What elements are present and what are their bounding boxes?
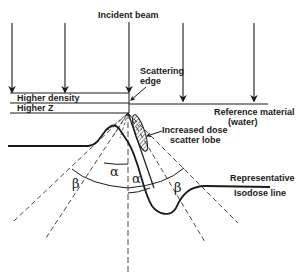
reference-material-label-2: (water) bbox=[228, 117, 258, 127]
scattering-edge-label-2: edge bbox=[140, 76, 161, 86]
reference-material-label: Reference material bbox=[214, 107, 295, 117]
scattering-edge-label: Scattering bbox=[140, 66, 184, 76]
scattering-edge-arrow bbox=[131, 87, 146, 100]
scatter-lobe-label: Increased dose bbox=[162, 125, 228, 135]
higher-density-label: Higher density bbox=[17, 93, 80, 103]
incident-beam-label: Incident beam bbox=[98, 10, 159, 20]
beta-left: β bbox=[72, 176, 80, 191]
incident-beam-arrows bbox=[12, 22, 254, 101]
alpha-left: α bbox=[110, 164, 119, 179]
dose-scatter-diagram: Incident beam Higher density Higher Z Sc… bbox=[0, 0, 299, 280]
beta-right: β bbox=[174, 180, 182, 195]
higher-z-label: Higher Z bbox=[17, 103, 54, 113]
isodose-label: Representative bbox=[230, 173, 295, 183]
scatter-lobe-label-2: scatter lobe bbox=[170, 135, 221, 145]
isodose-label-2: Isodose line bbox=[234, 188, 286, 198]
scatter-lobe-arrow bbox=[147, 131, 162, 136]
